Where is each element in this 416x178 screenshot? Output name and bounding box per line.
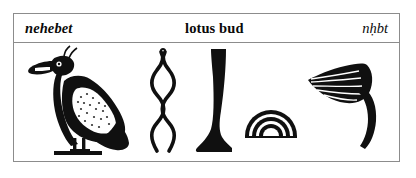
bread-loaf-glyph: [243, 97, 299, 139]
vulture-artwork: [28, 46, 129, 155]
twisted-flax-wick-glyph: [142, 47, 184, 155]
hieroglyph-strip: [14, 43, 399, 161]
dictionary-entry-panel: nehebet lotus bud nḥbt: [13, 13, 400, 162]
bud-artwork: [308, 63, 376, 149]
leg-shape: [195, 49, 231, 152]
lotus-bud-glyph: [307, 55, 389, 151]
loaf-arcs: [245, 110, 297, 138]
page-root: nehebet lotus bud nḥbt: [0, 0, 416, 178]
wick-strands: [152, 52, 175, 151]
egyptian-vulture-glyph: [24, 45, 130, 157]
entry-transliteration: nḥbt: [362, 20, 388, 37]
entry-meaning: lotus bud: [72, 20, 362, 37]
leg-and-foot-glyph: [192, 47, 236, 155]
entry-header: nehebet lotus bud nḥbt: [14, 14, 399, 42]
entry-transcription: nehebet: [25, 20, 72, 37]
